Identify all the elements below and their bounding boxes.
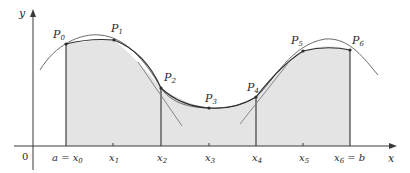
svg-text:P6: P6 [351, 34, 364, 48]
svg-text:P3: P3 [204, 92, 217, 106]
tick-label-x0: a = x0 [52, 152, 83, 165]
origin-label: 0 [22, 151, 28, 162]
svg-text:x1: x1 [109, 152, 119, 165]
svg-text:x5: x5 [299, 152, 310, 165]
tick-label-x4: x4 [252, 152, 262, 165]
label-p4: P4 [246, 81, 259, 95]
tick-label-x3: x3 [205, 152, 216, 165]
label-p1: P1 [110, 22, 123, 36]
label-p0: P0 [52, 28, 65, 42]
label-p2: P2 [163, 71, 176, 85]
point-p4 [254, 95, 257, 98]
svg-text:x2: x2 [157, 152, 168, 165]
tick-label-x5: x5 [299, 152, 310, 165]
svg-text:P0: P0 [52, 28, 65, 42]
point-p5 [301, 49, 304, 52]
x-axis-label: x [388, 152, 395, 165]
figure-diagram: y x 0 a = x0 x1 x2 x3 x4 x5 x6 = b P0 P1… [0, 0, 410, 173]
tick-label-x2: x2 [157, 152, 168, 165]
label-p5: P5 [290, 34, 303, 48]
svg-text:P1: P1 [110, 22, 123, 36]
diagram-canvas: y x 0 a = x0 x1 x2 x3 x4 x5 x6 = b P0 P1… [0, 0, 410, 173]
svg-text:P5: P5 [290, 34, 303, 48]
point-p6 [348, 48, 351, 51]
svg-text:x4: x4 [252, 152, 262, 165]
x-axis-arrow-icon [389, 143, 397, 149]
svg-text:x6 = b: x6 = b [334, 152, 365, 165]
svg-text:P2: P2 [163, 71, 176, 85]
label-p3: P3 [204, 92, 217, 106]
y-axis-label: y [18, 7, 26, 20]
point-p2 [159, 86, 162, 89]
point-p0 [64, 42, 67, 45]
svg-text:P4: P4 [246, 81, 259, 95]
label-p6: P6 [351, 34, 364, 48]
svg-text:a = x0: a = x0 [52, 152, 83, 165]
tick-label-x6: x6 = b [334, 152, 365, 165]
svg-text:x3: x3 [205, 152, 216, 165]
y-axis-arrow-icon [30, 9, 36, 17]
point-p3 [207, 106, 210, 109]
point-p1 [112, 38, 115, 41]
tick-label-x1: x1 [109, 152, 119, 165]
